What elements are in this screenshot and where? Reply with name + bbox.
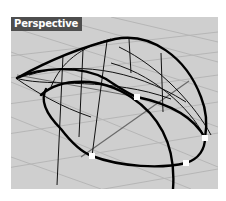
viewport-canvas[interactable]: [11, 17, 218, 189]
control-point[interactable]: [183, 160, 189, 166]
control-point[interactable]: [202, 135, 208, 141]
surface-edges: [17, 38, 206, 189]
control-point[interactable]: [89, 153, 95, 159]
viewport-title[interactable]: Perspective: [11, 17, 82, 31]
perspective-viewport[interactable]: Perspective: [11, 17, 218, 189]
front-edge-curve: [44, 89, 205, 166]
control-point[interactable]: [134, 94, 140, 100]
